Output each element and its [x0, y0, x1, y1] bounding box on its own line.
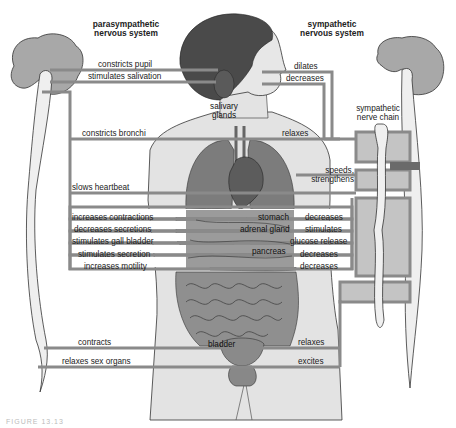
symp-effect-stomach: decreases — [305, 213, 343, 222]
sympathetic-header: sympathetic nervous system — [292, 20, 372, 38]
parasympathetic-header: parasympathetic nervous system — [86, 20, 166, 38]
symp-effect-liver: glucose release — [290, 237, 347, 246]
symp-effect-adrenal: stimulates — [305, 225, 342, 234]
symp-effect-bronchi: relaxes — [282, 129, 308, 138]
figure-caption: FIGURE 13.13 — [6, 418, 64, 425]
symp-effect-sex-organs: excites — [298, 357, 323, 366]
sex-organs — [229, 366, 257, 386]
nerve-chain-label: sympathetic nerve chain — [350, 104, 406, 122]
para-effect-stomach-contractions: increases contractions — [72, 213, 153, 222]
symp-effect-salivation: decreases — [286, 74, 324, 83]
para-effect-pancreas: stimulates secretion — [78, 250, 150, 259]
bladder-label: bladder — [208, 340, 235, 349]
para-effect-stomach-secretions: decreases secretions — [74, 225, 151, 234]
para-effect-bladder: contracts — [78, 338, 111, 347]
symp-effect-pancreas: decreases — [300, 250, 338, 259]
para-effect-pupil: constricts pupil — [98, 60, 152, 69]
para-effect-sex-organs: relaxes sex organs — [62, 357, 131, 366]
adrenal-gland-label: adrenal gland — [240, 225, 290, 234]
para-effect-salivation: stimulates salivation — [88, 72, 161, 81]
salivary-glands-label: salivary glands — [204, 102, 244, 120]
intestines — [176, 272, 299, 346]
symp-effect-bladder: relaxes — [298, 338, 324, 347]
para-effect-intestine: increases motility — [84, 262, 147, 271]
symp-effect-intestine: decreases — [300, 262, 338, 271]
pancreas-label: pancreas — [252, 247, 286, 256]
para-effect-heart: slows heartbeat — [72, 183, 129, 192]
salivary-gland-organ — [214, 70, 234, 98]
left-spinal-cord — [26, 71, 52, 392]
symp-effect-pupil: dilates — [294, 62, 318, 71]
para-effect-bronchi: constricts bronchi — [82, 129, 146, 138]
stomach-label: stomach — [258, 213, 289, 222]
symp-effect-heart: speeds, strengthens — [300, 166, 354, 184]
para-effect-gall-bladder: stimulates gall bladder — [72, 237, 153, 246]
